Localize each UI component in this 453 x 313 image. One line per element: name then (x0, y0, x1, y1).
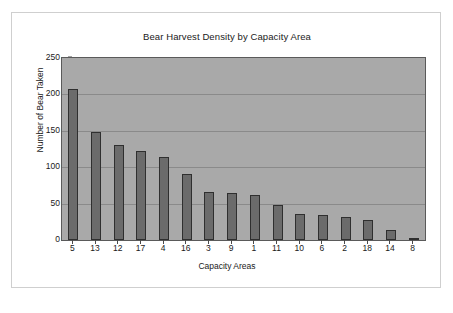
bar (227, 193, 237, 240)
bar-slot (107, 58, 130, 240)
bar-slot (221, 58, 244, 240)
bar (295, 214, 305, 240)
bar-slot (334, 58, 357, 240)
y-axis-tick-label: 250 (20, 52, 60, 62)
x-axis-tick-label: 16 (174, 243, 197, 253)
y-axis-tick-label: 0 (20, 234, 60, 244)
x-axis-tick-label: 10 (288, 243, 311, 253)
bar (386, 230, 396, 240)
x-axis-tick-label: 18 (356, 243, 379, 253)
bar-slot (357, 58, 380, 240)
x-axis-title: Capacity Areas (12, 261, 442, 271)
x-axis-tick-label: 5 (61, 243, 84, 253)
bar-slot (402, 58, 425, 240)
bar (136, 151, 146, 240)
bar-slot (380, 58, 403, 240)
x-axis-tick-label: 12 (106, 243, 129, 253)
bar-slot (175, 58, 198, 240)
bar-slot (153, 58, 176, 240)
y-axis-tick-label: 150 (20, 125, 60, 135)
x-axis-tick-label: 13 (84, 243, 107, 253)
bar (182, 174, 192, 240)
x-axis-tick-label: 6 (311, 243, 334, 253)
bar-series (62, 58, 425, 240)
bar-slot (85, 58, 108, 240)
x-axis-tick-label: 9 (220, 243, 243, 253)
bar-slot (312, 58, 335, 240)
bar-slot (130, 58, 153, 240)
y-axis-tick-label: 50 (20, 198, 60, 208)
bar (273, 205, 283, 240)
bar-slot (266, 58, 289, 240)
bar (91, 132, 101, 240)
bar-slot (198, 58, 221, 240)
bar-slot (244, 58, 267, 240)
bar (318, 215, 328, 240)
chart-title: Bear Harvest Density by Capacity Area (12, 31, 442, 42)
y-axis-tick-label: 200 (20, 88, 60, 98)
y-axis-tick-label: 100 (20, 161, 60, 171)
x-axis-tick-label: 4 (152, 243, 175, 253)
x-axis-tick-label: 14 (379, 243, 402, 253)
bar-slot (289, 58, 312, 240)
x-axis-tick-labels: 513121741639111106218148 (61, 243, 424, 253)
bar (159, 157, 169, 240)
bar (114, 145, 124, 240)
chart-page: Bear Harvest Density by Capacity Area Nu… (0, 0, 453, 313)
bar-slot (62, 58, 85, 240)
x-axis-tick-label: 8 (401, 243, 424, 253)
y-axis-tick-labels: 250200150100500 (20, 57, 60, 239)
x-axis-tick-label: 11 (265, 243, 288, 253)
bar (68, 89, 78, 240)
bar (341, 217, 351, 240)
chart-frame: Bear Harvest Density by Capacity Area Nu… (11, 12, 441, 288)
x-axis-tick-label: 3 (197, 243, 220, 253)
bar (363, 220, 373, 240)
plot-area (61, 57, 426, 241)
x-axis-tick-label: 17 (129, 243, 152, 253)
x-axis-tick-label: 1 (243, 243, 266, 253)
bar (204, 192, 214, 240)
x-axis-tick-label: 2 (333, 243, 356, 253)
bar (250, 195, 260, 240)
